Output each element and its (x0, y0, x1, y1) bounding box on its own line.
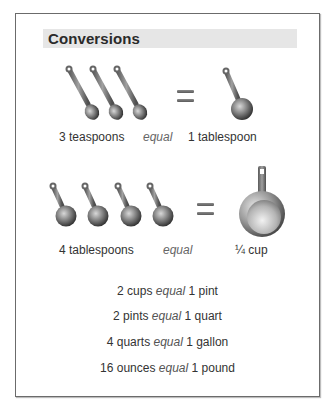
fact-equal: equal (152, 309, 181, 323)
fact-right: 1 quart (185, 309, 222, 323)
fact-row: 2 cups equal 1 pint (16, 284, 319, 298)
card-header: Conversions (43, 29, 297, 48)
fact-left: 16 ounces (100, 361, 155, 375)
row1-equal-label: equal (143, 130, 172, 144)
fact-right: 1 gallon (186, 335, 228, 349)
tablespoon-icon (147, 183, 174, 227)
fact-left: 2 cups (117, 284, 152, 298)
fact-row: 4 quarts equal 1 gallon (16, 335, 319, 349)
fact-equal: equal (159, 361, 188, 375)
fact-row: 2 pints equal 1 quart (16, 309, 319, 323)
row2-left-label: 4 tablespoons (59, 243, 134, 257)
fact-row: 16 ounces equal 1 pound (16, 361, 319, 375)
fact-right: 1 pound (192, 361, 235, 375)
fact-right: 1 pint (189, 284, 218, 298)
conversions-card: Conversions (15, 13, 320, 397)
card-title: Conversions (48, 30, 140, 47)
row2-equal-label: equal (163, 243, 192, 257)
tablespoon-icon (115, 183, 142, 227)
row1-right-label: 1 tablespoon (188, 130, 257, 144)
fact-left: 4 quarts (107, 335, 150, 349)
fact-left: 2 pints (113, 309, 148, 323)
row2-right-label: ¼ cup (235, 243, 268, 257)
teaspoons-group (60, 62, 160, 124)
equals-sign-icon (177, 90, 194, 103)
fact-equal: equal (156, 284, 185, 298)
equals-sign-icon (197, 203, 214, 216)
tablespoons-group (46, 180, 186, 228)
tablespoon-icon (82, 183, 109, 227)
fact-equal: equal (153, 335, 182, 349)
tablespoon-icon (218, 64, 258, 126)
measuring-cup-icon (237, 164, 287, 240)
row1-left-label: 3 teaspoons (59, 130, 124, 144)
tablespoon-icon (50, 183, 77, 227)
